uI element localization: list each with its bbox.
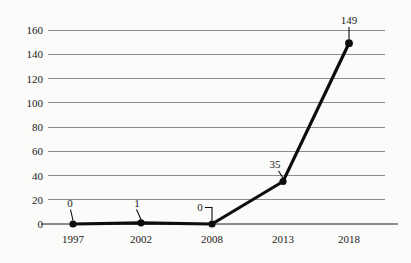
x-axis-tick-labels: 1997 2002 2008 2013 2018 [62, 233, 361, 245]
leader-line-2008 [205, 208, 212, 221]
leader-line-2013 [279, 171, 284, 178]
data-point-marker-1997 [69, 220, 76, 227]
x-tick-label-1997: 1997 [62, 233, 85, 245]
x-tick-label-2008: 2008 [201, 233, 224, 245]
data-label-2002: 1 [134, 197, 140, 209]
series-path-group [73, 43, 349, 224]
y-tick-label-80: 80 [32, 121, 44, 133]
series-line-path [73, 43, 349, 224]
data-point-marker-2008 [208, 220, 215, 227]
y-axis-tick-labels: 160 140 120 100 80 60 40 20 0 [27, 24, 44, 230]
y-tick-label-140: 140 [27, 48, 44, 60]
y-tick-label-120: 120 [27, 73, 44, 85]
data-label-2008: 0 [197, 201, 203, 213]
line-chart: 160 140 120 100 80 60 40 20 0 [0, 0, 411, 263]
data-label-2018: 149 [341, 14, 358, 26]
data-point-marker-2018 [345, 39, 353, 47]
data-label-2013: 35 [270, 158, 282, 170]
y-tick-label-60: 60 [32, 145, 44, 157]
x-tick-label-2018: 2018 [338, 233, 361, 245]
leader-line-2002 [137, 210, 142, 220]
data-label-1997: 0 [67, 197, 73, 209]
y-tick-label-160: 160 [27, 24, 44, 36]
leader-line-1997 [71, 210, 74, 221]
chart-canvas: 160 140 120 100 80 60 40 20 0 [0, 0, 411, 263]
data-point-marker-2013 [279, 178, 286, 185]
data-point-marker-2002 [137, 219, 144, 226]
x-tick-label-2002: 2002 [130, 233, 152, 245]
gridlines [41, 30, 398, 224]
y-tick-label-40: 40 [32, 170, 44, 182]
data-label-leader-lines [71, 27, 350, 221]
y-tick-label-20: 20 [32, 194, 44, 206]
y-tick-label-100: 100 [27, 97, 44, 109]
x-tick-label-2013: 2013 [272, 233, 295, 245]
y-tick-label-0: 0 [38, 218, 44, 230]
